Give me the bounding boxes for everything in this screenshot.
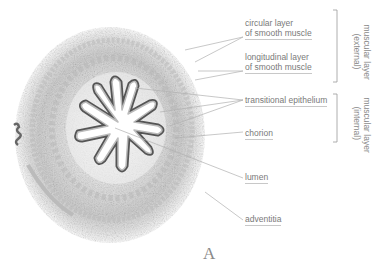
label-longitudinal-layer: longitudinal layer of smooth muscle xyxy=(245,52,312,74)
brackets xyxy=(333,10,337,142)
label-transitional-epithelium: transitional epithelium xyxy=(245,95,327,107)
label-circular-layer: circular layer of smooth muscle xyxy=(245,18,312,40)
ureter-cross-section-illustration xyxy=(0,0,373,270)
histology-figure: circular layer of smooth muscle longitud… xyxy=(0,0,373,270)
label-lumen: lumen xyxy=(245,172,268,184)
panel-letter: A xyxy=(203,244,215,264)
bracket-muscular-internal: muscular layer (internal) xyxy=(342,88,373,148)
label-adventitia: adventitia xyxy=(245,214,281,226)
bracket-muscular-external: muscular layer (external) xyxy=(342,12,373,82)
label-chorion: chorion xyxy=(245,128,273,140)
